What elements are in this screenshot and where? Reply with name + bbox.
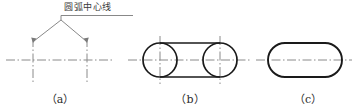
panel-a (6, 38, 114, 82)
caption-panel-a: （a） (24, 90, 96, 106)
technical-drawing-figure: 圆弧中心线 （a） （b） （c） (0, 0, 356, 112)
panel-c (256, 43, 352, 77)
panel-b (128, 36, 250, 84)
caption-panel-c: （c） (272, 90, 344, 106)
leader-line-left (34, 20, 61, 41)
leader-line-right (61, 20, 86, 41)
leader-arrow-left (31, 37, 36, 43)
annotation-leader (31, 16, 133, 44)
arc-centerline-label: 圆弧中心线 (64, 2, 112, 13)
leader-arrow-right (83, 37, 88, 43)
caption-panel-b: （b） (154, 90, 226, 106)
